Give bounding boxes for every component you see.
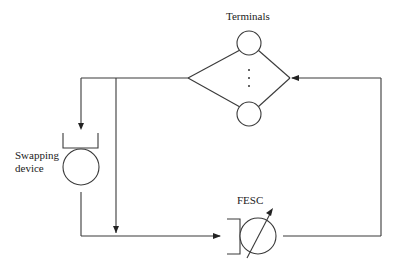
terminals-label: Terminals bbox=[226, 10, 270, 23]
terminal-top-circle bbox=[237, 31, 261, 55]
fesc-queue bbox=[227, 219, 240, 254]
diagram-svg bbox=[0, 0, 395, 270]
terminals-diamond-upper-right bbox=[258, 50, 290, 78]
terminal-bottom-circle bbox=[237, 102, 261, 126]
terminals-diamond-upper-left bbox=[188, 50, 240, 78]
ellipsis-dot-1 bbox=[248, 69, 250, 71]
terminals-diamond-lower-left bbox=[188, 78, 240, 107]
ellipsis-dot-2 bbox=[248, 77, 250, 79]
arrow-to-swapping-device bbox=[78, 123, 84, 130]
fesc-variable-rate-arrowhead bbox=[266, 208, 273, 216]
swapping-device-label-line2: device bbox=[15, 162, 44, 175]
arrow-bypass bbox=[113, 226, 119, 233]
swapping-device-queue bbox=[63, 133, 98, 148]
swapping-device-server bbox=[63, 149, 99, 185]
ellipsis-dot-3 bbox=[248, 85, 250, 87]
swapping-device-label-line1: Swapping bbox=[15, 149, 59, 162]
terminals-diamond-lower-right bbox=[258, 78, 290, 107]
arrow-to-terminals bbox=[291, 75, 299, 81]
arrow-to-fesc bbox=[213, 233, 221, 239]
queueing-network-diagram: Terminals Swapping device FESC bbox=[0, 0, 395, 270]
fesc-label: FESC bbox=[237, 194, 263, 207]
